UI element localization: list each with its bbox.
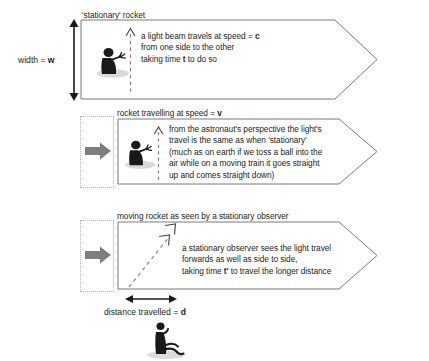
width-measure-text: width = — [18, 55, 48, 65]
panel-2-caption: rocket travelling at speed = v — [117, 108, 222, 118]
panel-1-line-2: from one side to the other — [141, 42, 260, 53]
seated-observer-icon — [144, 321, 190, 359]
panel-2-line-4: air while on a moving train it goes stra… — [169, 158, 322, 169]
panel-1-line-2-pre: from one side to the other — [141, 42, 234, 52]
panel-3-line-2: forwards as well as side to side, — [182, 254, 331, 265]
panel-1-line-1-bold: c — [255, 31, 260, 41]
panel-2-line-5: up and comes straight down) — [169, 170, 322, 181]
panel-1-text: a light beam travels at speed = c from o… — [141, 31, 260, 65]
distance-measure-label: distance travelled = d — [104, 307, 186, 317]
dashed-vertical-light-path-icon — [124, 26, 137, 96]
panel-2-line-3: (much as on earth if we toss a ball into… — [169, 147, 322, 158]
width-measure-label: width = w — [18, 55, 55, 65]
panel-2-grey-block-arrow-icon — [85, 142, 112, 160]
panel-3-line-1: a stationary observer sees the light tra… — [182, 243, 331, 254]
panel-3-caption: moving rocket as seen by a stationary ob… — [117, 211, 289, 221]
panel-1-line-1-pre: a light beam travels at speed = — [141, 31, 255, 41]
panel-3-grey-block-arrow-icon — [85, 246, 112, 264]
panel-2-line-2: travel is the same as when 'stationary' — [169, 135, 322, 146]
panel-3-line-3: taking time t' to travel the longer dist… — [182, 266, 331, 277]
distance-measure-symbol: d — [181, 307, 186, 317]
panel-1-line-1: a light beam travels at speed = c — [141, 31, 260, 42]
width-measure-symbol: w — [48, 55, 55, 65]
panel-2-line-1: from the astronaut's perspective the lig… — [169, 124, 322, 135]
panel-3-dashed-diagonal-light-path-icon — [124, 222, 184, 290]
panel-2-text: from the astronaut's perspective the lig… — [169, 124, 322, 181]
distance-measure-text: distance travelled = — [104, 307, 181, 317]
panel-1-line-3-post: to do so — [186, 54, 217, 64]
panel-2-dashed-vertical-light-path-icon — [152, 124, 165, 182]
panel-2-caption-symbol: v — [217, 108, 222, 118]
panel-3-text: a stationary observer sees the light tra… — [182, 243, 331, 277]
panel-3-line-3-post: to travel the longer distance — [228, 266, 331, 276]
panel-2-caption-text: rocket travelling at speed = — [117, 108, 217, 118]
panel-1-line-3-pre: taking time — [141, 54, 183, 64]
relativity-diagram: 'stationary' rocket width = w a light be… — [0, 0, 429, 361]
panel-1-line-3: taking time t to do so — [141, 54, 260, 65]
distance-arrow-icon — [124, 292, 182, 306]
panel-3-line-3-pre: taking time — [182, 266, 224, 276]
